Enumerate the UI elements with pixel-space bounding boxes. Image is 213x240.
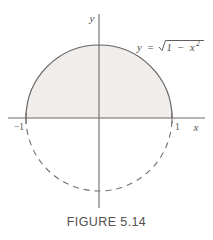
equation-equals-sign: = — [147, 42, 154, 53]
x-axis-label: x — [193, 121, 199, 133]
y-axis-label: y — [89, 12, 95, 24]
equation-annotation: y = 1 − x 2 — [136, 39, 204, 53]
equation-exponent: 2 — [196, 39, 200, 48]
equation-lhs: y — [136, 42, 142, 53]
equation-variable: x — [189, 42, 195, 53]
figure-container: −1 1 x y y = 1 − x 2 FIGURE 5.14 — [0, 0, 213, 240]
equation-radicand-lead: 1 — [167, 42, 172, 53]
figure-caption: FIGURE 5.14 — [0, 215, 213, 229]
tick-label-negative-one: −1 — [14, 122, 24, 132]
tick-label-one: 1 — [175, 122, 180, 132]
equation-minus-sign: − — [177, 42, 184, 53]
plot-canvas: −1 1 x y y = 1 − x 2 — [0, 0, 213, 240]
